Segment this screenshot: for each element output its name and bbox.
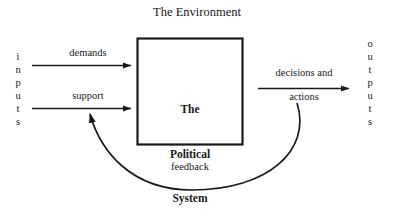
page-title: The Environment [0,5,394,19]
outputs-letter: s [368,117,372,130]
political-system-label: The Political System [137,73,243,219]
political-system-line-2: Political [137,147,243,162]
political-system-diagram: The Environment The Political System dem… [0,0,394,219]
decisions-label: decisions and [256,67,352,79]
actions-label: actions [256,91,352,103]
inputs-letter: s [16,117,20,130]
political-system-line-1: The [137,102,243,117]
outputs-vertical-label: o u t p u t s [362,39,378,130]
feedback-label: feedback [150,161,230,173]
inputs-vertical-label: i n p u t s [10,52,26,130]
political-system-line-3: System [137,191,243,206]
support-label: support [48,90,128,102]
demands-label: demands [48,47,128,59]
